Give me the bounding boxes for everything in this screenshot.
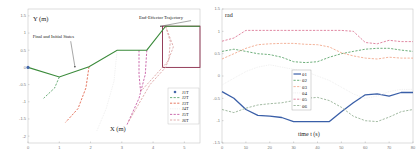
- legend-entry: J4T: [182, 106, 189, 111]
- joint-angle-plot: 010203040506070801.510.50-0.5-1-1.5radti…: [213, 6, 416, 150]
- x-axis-label: X (m): [110, 125, 126, 133]
- legend-entry: J3T: [182, 101, 189, 106]
- legend: θ1θ2θ3θ4θ5θ6: [292, 70, 311, 110]
- arrow-head-icon: [74, 66, 75, 67]
- x-tick-label: 10: [244, 145, 249, 150]
- base-joint-marker: [26, 66, 29, 69]
- legend-entry: J5T: [182, 112, 189, 117]
- y-axis-label: rad: [225, 12, 233, 18]
- x-tick-label: 60: [363, 145, 368, 150]
- y-tick-label: -0.5: [213, 96, 221, 101]
- legend-entry: θ4: [302, 91, 307, 96]
- y-tick-label: -1.5: [19, 116, 27, 121]
- x-tick-label: 3: [121, 145, 124, 150]
- x-tick-label: 40: [315, 145, 320, 150]
- x-tick-label: 20: [268, 145, 273, 150]
- x-tick-label: 0: [221, 145, 224, 150]
- y-tick-label: -1.5: [213, 140, 221, 145]
- y-tick-label: 0: [218, 73, 221, 78]
- x-tick-label: 2: [89, 145, 92, 150]
- y-tick-label: 1: [24, 30, 27, 35]
- legend-entry: θ3: [302, 85, 307, 90]
- y-tick-label: -1: [216, 118, 220, 123]
- y-tick-label: 1.5: [214, 6, 220, 11]
- x-tick-label: 5: [183, 145, 186, 150]
- y-tick-label: -2: [22, 134, 26, 139]
- legend-entry: J6T: [182, 118, 189, 123]
- annotation-label: End-Effector Trajectory: [139, 15, 184, 20]
- x-tick-label: 0: [27, 145, 30, 150]
- y-tick-label: -1: [22, 99, 26, 104]
- y-tick-label: 1.5: [20, 13, 26, 18]
- x-axis-label: time t (s): [298, 131, 320, 138]
- x-tick-label: 50: [339, 145, 344, 150]
- legend-entry: J2T: [182, 95, 189, 100]
- legend: J1TJ2TJ3TJ4TJ5TJ6T: [168, 88, 199, 124]
- annotation-label: Final and Initial States: [33, 34, 75, 39]
- legend-entry: θ1: [302, 72, 307, 77]
- y-tick-label: 0.5: [214, 51, 220, 56]
- figure: 0123451.510.50-0.5-1-1.5-2End-Effector T…: [0, 0, 416, 157]
- x-tick-label: 4: [152, 145, 155, 150]
- y-tick-label: 0: [24, 65, 27, 70]
- x-tick-label: 70: [387, 145, 392, 150]
- y-axis-label: Y (m): [33, 15, 48, 23]
- legend-entry: J1T: [182, 90, 189, 95]
- legend-entry: θ5: [302, 97, 307, 102]
- trajectory-plot: 0123451.510.50-0.5-1-1.5-2End-Effector T…: [19, 9, 200, 150]
- legend-entry: θ6: [302, 104, 307, 109]
- x-tick-label: 30: [291, 145, 296, 150]
- x-tick-label: 1: [58, 145, 61, 150]
- x-tick-label: 80: [411, 145, 416, 150]
- arrow-head-icon: [160, 25, 161, 26]
- legend-entry: θ2: [302, 78, 307, 83]
- y-tick-label: 0.5: [20, 48, 26, 53]
- y-tick-label: 1: [218, 29, 221, 34]
- legend-marker-icon: [174, 91, 177, 94]
- y-tick-label: -0.5: [19, 82, 27, 87]
